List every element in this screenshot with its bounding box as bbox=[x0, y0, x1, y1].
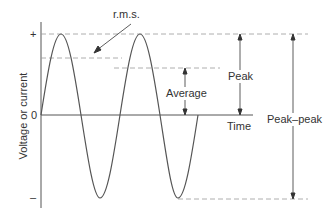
rms-pointer-arrow bbox=[94, 24, 131, 53]
sine-wave bbox=[41, 34, 198, 198]
zero-tick-label: 0 bbox=[31, 110, 37, 121]
minus-tick-label: – bbox=[30, 192, 36, 203]
peak-peak-label: Peak–peak bbox=[267, 113, 322, 126]
waveform-diagram bbox=[0, 0, 331, 222]
rms-label: r.m.s. bbox=[113, 9, 140, 20]
peak-label: Peak bbox=[228, 70, 253, 83]
plus-tick-label: + bbox=[30, 29, 36, 40]
average-label: Average bbox=[166, 87, 207, 100]
y-axis-label: Voltage or current bbox=[17, 61, 29, 171]
x-axis-label: Time bbox=[227, 121, 251, 132]
